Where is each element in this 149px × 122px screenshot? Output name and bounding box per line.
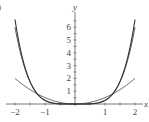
y-tick-label: 6: [67, 22, 72, 32]
y-tick-label: 3: [67, 61, 72, 71]
x-tick-label: 1: [103, 107, 108, 117]
y-tick-label: 4: [67, 48, 72, 58]
y-axis-label: y: [72, 2, 77, 12]
y-tick-label: 5: [67, 35, 72, 45]
y-tick-label: 2: [67, 73, 72, 83]
x-axis-label: x: [143, 99, 148, 109]
chart: ) −2−112123456xy: [0, 0, 149, 122]
x-tick-label: −1: [40, 107, 50, 117]
x-tick-label: −2: [10, 107, 20, 117]
x-tick-label: 2: [133, 107, 138, 117]
plot-area: −2−112123456xy: [0, 0, 149, 122]
y-tick-label: 1: [67, 86, 72, 96]
